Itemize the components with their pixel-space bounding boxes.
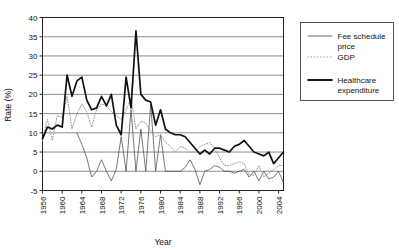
y-axis-ticks: -50510152025303540: [29, 14, 43, 196]
x-tick-label: 2004: [275, 196, 284, 214]
y-tick-label: 25: [29, 71, 38, 80]
line-chart: -50510152025303540 195619601964196819721…: [0, 0, 399, 250]
gridlines: [43, 18, 284, 172]
x-tick-label: 1968: [98, 196, 107, 214]
x-axis-title: Year: [154, 237, 171, 247]
x-axis-ticks: 1956196019641968197219761980198419881992…: [39, 191, 284, 215]
x-tick-label: 1972: [117, 196, 126, 214]
x-tick-label: 1984: [176, 196, 185, 214]
x-tick-label: 1964: [78, 196, 87, 214]
y-axis-title: Rate (%): [3, 88, 13, 122]
y-tick-label: 20: [29, 90, 38, 99]
legend-label-0-cont: price: [338, 42, 356, 51]
legend-label-1: GDP: [338, 53, 355, 62]
x-tick-label: 1976: [137, 196, 146, 214]
y-tick-label: 35: [29, 33, 38, 42]
y-tick-label: 0: [33, 167, 38, 176]
x-tick-label: 1996: [235, 196, 244, 214]
y-tick-label: 30: [29, 52, 38, 61]
series-line-2: [43, 31, 284, 164]
x-tick-label: 1960: [58, 196, 67, 214]
legend-label-2: Healthcare: [338, 76, 377, 85]
y-tick-label: 15: [29, 110, 38, 119]
y-tick-label: 5: [33, 148, 38, 157]
legend-label-0: Fee schedule: [338, 32, 387, 41]
x-tick-label: 1988: [196, 196, 205, 214]
legend-label-2-cont: expenditure: [338, 86, 380, 95]
plot-frame: [43, 18, 284, 191]
x-tick-label: 1980: [157, 196, 166, 214]
y-tick-label: 10: [29, 129, 38, 138]
legend: Fee schedulepriceGDPHealthcareexpenditur…: [301, 23, 394, 101]
x-tick-label: 1956: [39, 196, 48, 214]
y-tick-label: -5: [30, 187, 38, 196]
series-layer: [43, 31, 284, 185]
y-tick-label: 40: [29, 14, 38, 23]
x-tick-label: 1992: [216, 196, 225, 214]
series-line-0: [77, 104, 284, 185]
chart-figure: -50510152025303540 195619601964196819721…: [0, 0, 399, 250]
x-tick-label: 2000: [255, 196, 264, 214]
plot-border: [43, 18, 284, 191]
